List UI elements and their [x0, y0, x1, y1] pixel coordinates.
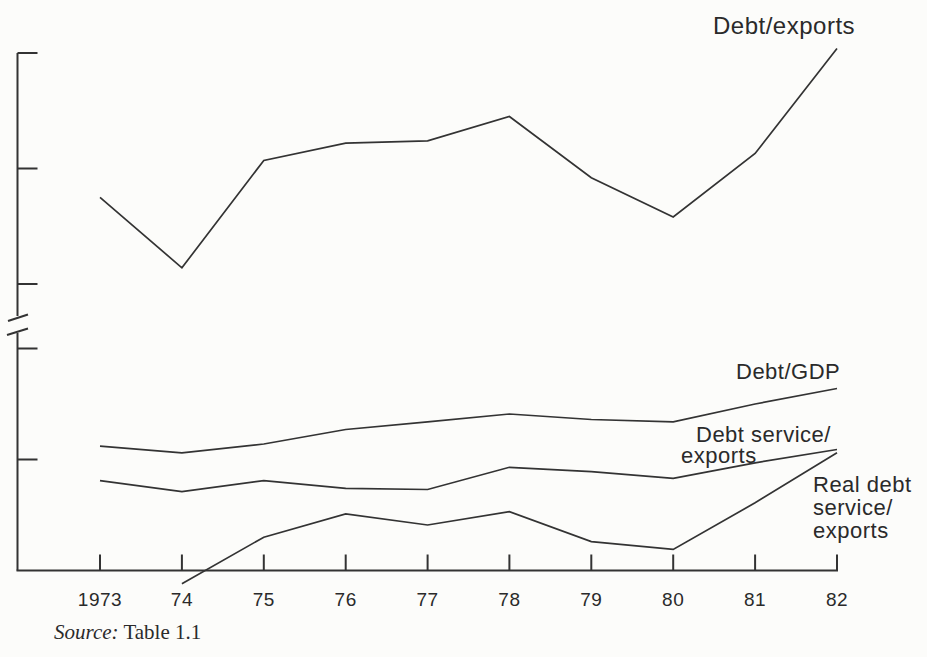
series-label-debt-gdp: Debt/GDP	[736, 360, 840, 383]
x-axis-label-74: 74	[171, 589, 193, 611]
debt-exports-line	[100, 48, 837, 267]
x-axis-label-1973: 1973	[78, 589, 122, 611]
series-label-debt-exports: Debt/exports	[713, 14, 855, 37]
x-axis-label-77: 77	[417, 589, 439, 611]
debt-ratios-chart	[0, 0, 927, 657]
x-axis-label-80: 80	[662, 589, 684, 611]
x-axis-label-81: 81	[744, 589, 766, 611]
debt-indicators-figure: Debt/exports Debt/GDP Debt service/ expo…	[0, 0, 927, 657]
x-axis-label-79: 79	[580, 589, 602, 611]
x-axis-label-76: 76	[335, 589, 357, 611]
x-axis-label-78: 78	[498, 589, 520, 611]
chart-dynamic-layer	[18, 48, 838, 583]
source-text: Table 1.1	[123, 620, 201, 644]
source-note: Source: Table 1.1	[54, 620, 201, 645]
source-prefix: Source:	[54, 620, 119, 644]
x-axis-label-82: 82	[826, 589, 848, 611]
y-axis	[7, 53, 28, 571]
series-label-debt-service-line2: exports	[681, 444, 757, 467]
x-axis-label-75: 75	[253, 589, 275, 611]
series-label-real-debt-service: Real debt service/ exports	[813, 473, 912, 542]
